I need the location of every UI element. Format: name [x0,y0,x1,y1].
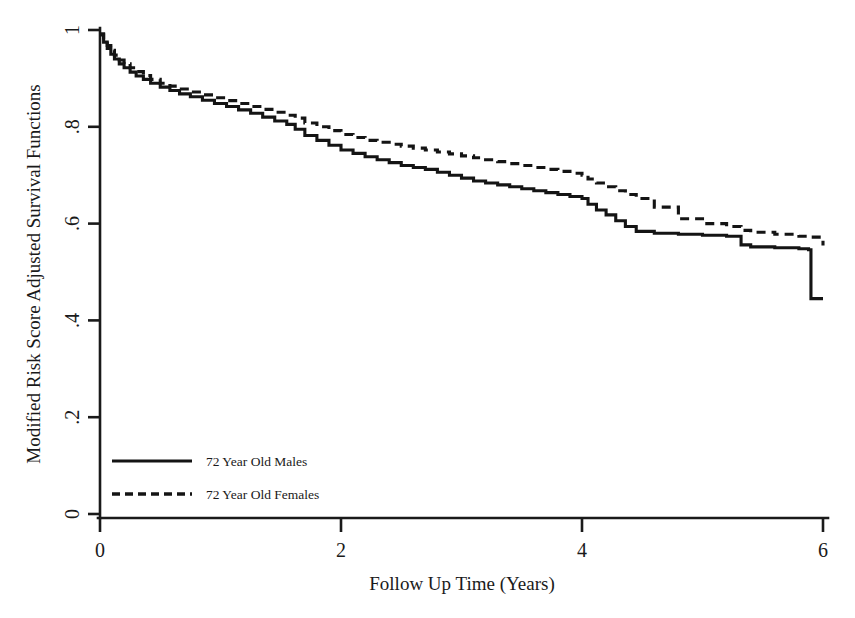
x-axis-ticks: 0246 [95,518,828,561]
legend-label-males: 72 Year Old Males [206,454,307,469]
x-tick-label: 6 [818,539,828,561]
x-tick-label: 0 [95,539,105,561]
y-axis-ticks: 0.2.4.6.81 [61,25,100,519]
survival-curve-figure: Modified Risk Score Adjusted Survival Fu… [0,0,855,618]
legend-label-females: 72 Year Old Females [206,487,319,502]
y-tick-label: 1 [61,25,83,35]
y-tick-label: 0 [61,509,83,519]
series-line-males [100,35,823,299]
y-tick-label: .4 [61,313,83,328]
y-axis-title: Modified Risk Score Adjusted Survival Fu… [23,84,44,463]
x-axis-title: Follow Up Time (Years) [369,573,554,595]
y-tick-label: .2 [61,410,83,425]
legend: 72 Year Old Males 72 Year Old Females [112,454,319,502]
y-tick-label: .6 [61,216,83,231]
series-line-females [100,34,823,246]
x-tick-label: 2 [336,539,346,561]
y-tick-label: .8 [61,119,83,134]
x-tick-label: 4 [577,539,587,561]
